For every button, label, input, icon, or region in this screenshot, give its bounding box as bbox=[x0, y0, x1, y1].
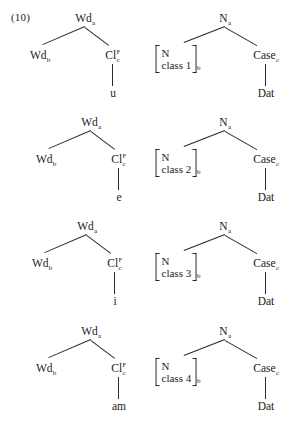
word-tree-left-daughter-3-subscript: b bbox=[49, 264, 53, 272]
word-tree-root-3: Wda bbox=[77, 221, 97, 233]
word-tree-left-daughter-1-subscript: b bbox=[47, 56, 51, 64]
noun-tree-case-node-1-subscript: c bbox=[276, 56, 279, 64]
noun-tree-stem-3 bbox=[265, 272, 266, 294]
word-tree-terminal-1: u bbox=[110, 88, 116, 100]
word-tree-left-daughter-3-text: Wd bbox=[32, 257, 49, 269]
noun-tree-right-branch-3 bbox=[225, 235, 257, 254]
noun-tree-root-4-text: N bbox=[219, 325, 227, 337]
noun-tree-feature-matrix-4: Nclass 4b bbox=[156, 358, 201, 386]
word-tree-terminal-3: i bbox=[113, 296, 116, 308]
word-tree-left-daughter-2-subscript: b bbox=[53, 160, 57, 168]
noun-tree-root-1-subscript: a bbox=[228, 19, 231, 27]
noun-tree-feature-matrix-4-line-1: N bbox=[162, 360, 192, 373]
noun-tree-case-node-2: Casec bbox=[253, 154, 278, 166]
noun-tree-stem-1 bbox=[265, 64, 266, 86]
word-tree-right-daughter-2-subscript: c bbox=[122, 161, 125, 168]
noun-tree-feature-matrix-2-rows: Nclass 2 bbox=[160, 149, 193, 177]
noun-tree-case-node-2-text: Case bbox=[253, 153, 275, 165]
noun-tree-terminal-3: Dat bbox=[258, 296, 275, 308]
word-tree-root-4: Wda bbox=[81, 326, 101, 338]
word-tree-right-daughter-3-superscript: F bbox=[118, 257, 122, 264]
noun-tree-feature-matrix-2: Nclass 2b bbox=[156, 149, 201, 177]
noun-tree-feature-matrix-2-line-2: class 2 bbox=[162, 163, 192, 176]
noun-tree-feature-matrix-3-rows: Nclass 3 bbox=[160, 253, 193, 281]
noun-tree-terminal-4: Dat bbox=[258, 401, 275, 413]
word-tree-left-branch-3 bbox=[45, 234, 87, 253]
noun-tree-feature-matrix-3-index: b bbox=[197, 273, 201, 281]
word-tree-root-2: Wda bbox=[81, 117, 101, 129]
linguistic-tree-figure: (10) WdaWdbClFcuNaNclass 1bCasecDatWdaWd… bbox=[0, 0, 300, 427]
word-tree-right-daughter-3: ClFc bbox=[107, 258, 122, 270]
noun-tree-feature-matrix-4-index: b bbox=[197, 378, 201, 386]
word-tree-right-branch-2 bbox=[90, 131, 115, 150]
noun-tree-root-1-text: N bbox=[219, 12, 227, 24]
word-tree-right-daughter-2-text: Cl bbox=[111, 153, 122, 165]
noun-tree-case-node-4-subscript: c bbox=[276, 369, 279, 377]
tree-row-4: WdaWdbClFcamNaNclass 4bCasecDat bbox=[0, 313, 300, 417]
noun-tree-feature-matrix-1-index: b bbox=[197, 65, 201, 73]
word-tree-left-branch-1 bbox=[43, 26, 85, 45]
word-tree-terminal-4: am bbox=[112, 401, 126, 413]
noun-tree-case-node-4-text: Case bbox=[253, 362, 275, 374]
noun-tree-left-branch-3 bbox=[184, 234, 225, 251]
tree-row-3: WdaWdbClFciNaNclass 3bCasecDat bbox=[0, 208, 300, 312]
word-tree-right-daughter-1-superscript: F bbox=[116, 49, 120, 56]
noun-tree-feature-matrix-4-rows: Nclass 4 bbox=[160, 358, 193, 386]
noun-tree-feature-matrix-2-index: b bbox=[197, 169, 201, 177]
word-tree-right-daughter-1: ClFc bbox=[105, 50, 120, 62]
noun-tree-left-branch-1 bbox=[184, 26, 225, 43]
noun-tree-case-node-3-text: Case bbox=[253, 257, 275, 269]
word-tree-right-daughter-3-text: Cl bbox=[107, 257, 118, 269]
word-tree-right-daughter-4-subscript: c bbox=[122, 370, 125, 377]
noun-tree-root-3: Na bbox=[219, 221, 230, 233]
noun-tree-feature-matrix-1-line-2: class 1 bbox=[162, 59, 192, 72]
noun-tree-case-node-3: Casec bbox=[253, 258, 278, 270]
noun-tree-terminal-2: Dat bbox=[258, 192, 275, 204]
noun-tree-case-node-1-text: Case bbox=[253, 49, 275, 61]
word-tree-left-daughter-2: Wdb bbox=[36, 154, 56, 166]
noun-tree-case-node-2-subscript: c bbox=[276, 160, 279, 168]
noun-tree-root-4-subscript: a bbox=[228, 332, 231, 340]
word-tree-root-2-subscript: a bbox=[98, 123, 101, 131]
noun-tree-right-branch-1 bbox=[225, 27, 257, 46]
word-tree-root-1: Wda bbox=[75, 13, 95, 25]
word-tree-right-daughter-4-superscript: F bbox=[122, 362, 126, 369]
word-tree-left-daughter-1: Wdb bbox=[30, 50, 50, 62]
word-tree-stem-3 bbox=[114, 272, 115, 294]
word-tree-left-daughter-1-text: Wd bbox=[30, 49, 47, 61]
word-tree-left-daughter-4-text: Wd bbox=[36, 362, 53, 374]
noun-tree-left-branch-2 bbox=[184, 130, 225, 147]
word-tree-right-daughter-2-superscript: F bbox=[122, 153, 126, 160]
noun-tree-case-node-3-subscript: c bbox=[276, 264, 279, 272]
word-tree-left-branch-2 bbox=[49, 130, 91, 149]
noun-tree-stem-4 bbox=[265, 377, 266, 399]
noun-tree-root-3-text: N bbox=[219, 220, 227, 232]
noun-tree-right-branch-2 bbox=[225, 131, 257, 150]
word-tree-right-daughter-1-text: Cl bbox=[105, 49, 116, 61]
noun-tree-root-2: Na bbox=[219, 117, 230, 129]
noun-tree-feature-matrix-3-line-1: N bbox=[162, 255, 192, 268]
word-tree-right-daughter-2: ClFc bbox=[111, 154, 126, 166]
noun-tree-feature-matrix-3-line-2: class 3 bbox=[162, 267, 192, 280]
word-tree-root-2-text: Wd bbox=[81, 116, 98, 128]
word-tree-left-branch-4 bbox=[49, 339, 91, 358]
word-tree-right-branch-1 bbox=[84, 27, 109, 46]
word-tree-right-daughter-1-subscript: c bbox=[116, 57, 119, 64]
noun-tree-feature-matrix-1-line-1: N bbox=[162, 47, 192, 60]
word-tree-root-4-text: Wd bbox=[81, 325, 98, 337]
noun-tree-feature-matrix-4-line-2: class 4 bbox=[162, 372, 192, 385]
tree-row-2: WdaWdbClFceNaNclass 2bCasecDat bbox=[0, 104, 300, 208]
word-tree-root-3-text: Wd bbox=[77, 220, 94, 232]
noun-tree-root-3-subscript: a bbox=[228, 227, 231, 235]
word-tree-root-1-text: Wd bbox=[75, 12, 92, 24]
word-tree-left-daughter-3: Wdb bbox=[32, 258, 52, 270]
noun-tree-case-node-1: Casec bbox=[253, 50, 278, 62]
word-tree-left-daughter-4: Wdb bbox=[36, 363, 56, 375]
word-tree-right-branch-3 bbox=[86, 235, 111, 254]
noun-tree-feature-matrix-1-rows: Nclass 1 bbox=[160, 45, 193, 73]
noun-tree-feature-matrix-3: Nclass 3b bbox=[156, 253, 201, 281]
noun-tree-root-2-text: N bbox=[219, 116, 227, 128]
noun-tree-stem-2 bbox=[265, 168, 266, 190]
noun-tree-root-2-subscript: a bbox=[228, 123, 231, 131]
noun-tree-root-1: Na bbox=[219, 13, 230, 25]
